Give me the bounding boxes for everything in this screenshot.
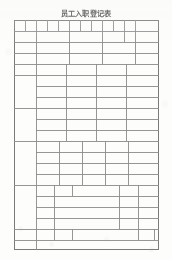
row-4-dividers (36, 53, 102, 64)
declaration-dividers (36, 229, 154, 250)
scanned-page: 员工入职登记表 (0, 0, 172, 260)
page-title: 员工入职登记表 (0, 9, 172, 18)
table-grid (14, 20, 159, 250)
employee-onboarding-table[interactable] (14, 20, 159, 250)
row-1-dividers (25, 20, 124, 31)
family-dividers (66, 108, 126, 141)
